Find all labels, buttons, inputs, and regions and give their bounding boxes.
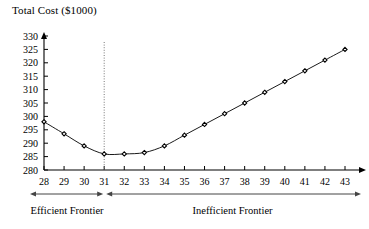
data-point-marker [102, 152, 106, 156]
axis-lines-group [41, 32, 366, 173]
y-axis-tick-label: 325 [23, 44, 38, 55]
x-axis-tick-label: 35 [179, 176, 189, 187]
x-axis-tick-label: 28 [39, 176, 49, 187]
y-axis-tick-label: 310 [23, 84, 38, 95]
y-axis-tick-label: 295 [23, 124, 38, 135]
x-axis-tick-label: 34 [159, 176, 169, 187]
x-axis-tick-label: 42 [320, 176, 330, 187]
x-axis-tick-label: 39 [260, 176, 270, 187]
efficient-frontier-label: Efficient Frontier [31, 205, 104, 216]
y-axis-tick-label: 285 [23, 151, 38, 162]
data-series-line [44, 49, 345, 154]
efficient-frontier-arrowhead-left [30, 191, 36, 196]
chart-plot-area: 280285290295300305310315320325330 282930… [0, 0, 369, 229]
x-axis-tick-label: 37 [220, 176, 230, 187]
data-series-markers [42, 47, 347, 156]
data-point-marker [202, 122, 206, 126]
x-axis-tick-label: 33 [139, 176, 149, 187]
x-axis-tick-label: 31 [99, 176, 109, 187]
y-axis-tick-label: 280 [23, 165, 38, 176]
x-axis-tick-label: 30 [79, 176, 89, 187]
y-axis-tick-label: 300 [23, 111, 38, 122]
frontier-arrow-group [30, 191, 361, 196]
data-point-marker [82, 144, 86, 148]
x-axis-tick-label: 36 [200, 176, 210, 187]
x-axis-tick-label: 40 [280, 176, 290, 187]
inefficient-frontier-label: Inefficient Frontier [193, 205, 273, 216]
data-point-marker [243, 101, 247, 105]
y-axis-tick-label: 315 [23, 71, 38, 82]
inefficient-frontier-arrowhead-right [355, 191, 361, 196]
data-point-marker [263, 90, 267, 94]
data-point-marker [283, 79, 287, 83]
x-axis-tick-label: 29 [59, 176, 69, 187]
x-axis-tick-label: 32 [119, 176, 129, 187]
x-axis-tick-label: 38 [240, 176, 250, 187]
data-point-marker [42, 120, 46, 124]
data-point-marker [142, 150, 146, 154]
inefficient-frontier-arrowhead-left [106, 191, 112, 196]
data-point-marker [122, 152, 126, 156]
y-axis-tick-label: 290 [23, 138, 38, 149]
data-point-marker [323, 58, 327, 62]
x-axis-tick-label: 43 [340, 176, 350, 187]
data-point-marker [182, 133, 186, 137]
data-point-marker [223, 112, 227, 116]
x-axis-tick-label: 41 [300, 176, 310, 187]
chart-container: Total Cost ($1000) 280285290295300305310… [0, 0, 369, 229]
frontier-label-group: Efficient FrontierInefficient Frontier [31, 205, 273, 216]
y-axis-tick-label: 330 [23, 31, 38, 42]
data-point-marker [162, 144, 166, 148]
data-point-marker [62, 132, 66, 136]
y-axis-tick-label: 305 [23, 98, 38, 109]
efficient-frontier-arrowhead-right [97, 191, 103, 196]
data-point-marker [343, 47, 347, 51]
series-path [44, 49, 345, 154]
x-axis-arrowhead [359, 167, 366, 173]
data-point-marker [303, 69, 307, 73]
y-axis-tick-label: 320 [23, 57, 38, 68]
x-axis-tick-group: 28293031323334353637383940414243 [39, 166, 350, 187]
